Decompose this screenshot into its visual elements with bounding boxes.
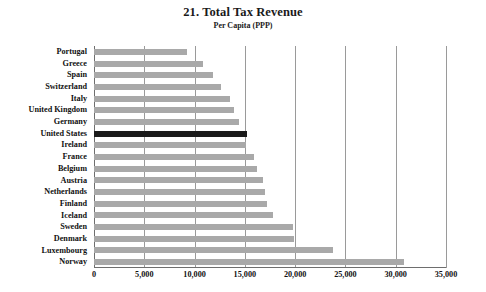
bar-row: [94, 116, 446, 128]
bar-netherlands: [94, 189, 265, 195]
bar-row: [94, 58, 446, 70]
x-axis-tick-15000: 15,000: [234, 270, 257, 279]
bar-portugal: [94, 49, 187, 55]
x-axis-tick-35000: 35,000: [435, 270, 458, 279]
bar-row: [94, 46, 446, 58]
bar-row: [94, 221, 446, 233]
x-axis-tick-20000: 20,000: [284, 270, 307, 279]
bar-ireland: [94, 142, 246, 148]
x-axis-tick-0: 0: [92, 270, 96, 279]
y-axis-label-portugal: Portugal: [0, 46, 87, 58]
x-axis-tick-25000: 25,000: [334, 270, 357, 279]
y-axis-label-iceland: Iceland: [0, 210, 87, 222]
bar-row: [94, 175, 446, 187]
y-axis-label-sweden: Sweden: [0, 221, 87, 233]
y-axis-label-austria: Austria: [0, 175, 87, 187]
y-axis-label-denmark: Denmark: [0, 233, 87, 245]
bar-row: [94, 198, 446, 210]
chart-subtitle: Per Capita (PPP): [0, 21, 486, 30]
plot-area: [94, 46, 446, 268]
bar-denmark: [94, 236, 294, 242]
bar-italy: [94, 96, 230, 102]
y-axis-label-ireland: Ireland: [0, 139, 87, 151]
bar-row: [94, 245, 446, 257]
bar-row: [94, 163, 446, 175]
y-axis-label-united-kingdom: United Kingdom: [0, 104, 87, 116]
bar-row: [94, 210, 446, 222]
bar-france: [94, 154, 254, 160]
bar-row: [94, 69, 446, 81]
y-axis-label-norway: Norway: [0, 256, 87, 268]
x-axis-labels: 05,00010,00015,00020,00025,00030,00035,0…: [0, 270, 486, 286]
chart-container: 21. Total Tax Revenue Per Capita (PPP) P…: [0, 0, 486, 292]
y-axis-label-spain: Spain: [0, 69, 87, 81]
bar-luxembourg: [94, 247, 333, 253]
x-axis-tick-10000: 10,000: [183, 270, 206, 279]
bar-united-kingdom: [94, 107, 234, 113]
y-axis-label-france: France: [0, 151, 87, 163]
bar-row: [94, 128, 446, 140]
bar-spain: [94, 72, 213, 78]
y-axis-label-switzerland: Switzerland: [0, 81, 87, 93]
y-axis-label-italy: Italy: [0, 93, 87, 105]
bar-row: [94, 233, 446, 245]
x-axis-tick-30000: 30,000: [384, 270, 407, 279]
bar-germany: [94, 119, 239, 125]
chart-title: 21. Total Tax Revenue: [0, 5, 486, 20]
bar-austria: [94, 177, 263, 183]
x-axis-line: [94, 267, 446, 268]
y-axis-labels: PortugalGreeceSpainSwitzerlandItalyUnite…: [0, 46, 90, 268]
y-axis-label-luxembourg: Luxembourg: [0, 245, 87, 257]
bar-row: [94, 139, 446, 151]
bar-switzerland: [94, 84, 221, 90]
bar-row: [94, 186, 446, 198]
x-axis-tick-5000: 5,000: [135, 270, 153, 279]
y-axis-label-belgium: Belgium: [0, 163, 87, 175]
bar-row: [94, 93, 446, 105]
y-axis-label-united-states: United States: [0, 128, 87, 140]
bar-row: [94, 151, 446, 163]
bar-row: [94, 81, 446, 93]
bar-greece: [94, 61, 203, 67]
bar-finland: [94, 201, 267, 207]
bar-iceland: [94, 212, 273, 218]
y-axis-label-greece: Greece: [0, 58, 87, 70]
y-axis-label-germany: Germany: [0, 116, 87, 128]
bar-belgium: [94, 166, 257, 172]
bar-norway: [94, 259, 404, 265]
bar-united-states: [94, 131, 247, 137]
y-axis-label-finland: Finland: [0, 198, 87, 210]
gridline-35000: [446, 46, 447, 268]
bar-row: [94, 104, 446, 116]
y-axis-label-netherlands: Netherlands: [0, 186, 87, 198]
bar-sweden: [94, 224, 293, 230]
